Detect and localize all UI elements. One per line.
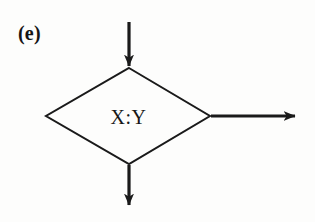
decision-node-label: X:Y [0,105,257,129]
panel-label: (e) [18,22,41,44]
figure-canvas: (e) X:Y [0,0,315,222]
